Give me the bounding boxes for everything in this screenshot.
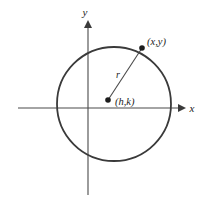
circle-point-label: (x,y) [147,36,166,48]
circle-point-dot [139,45,145,51]
radius-line [108,48,142,100]
center-point-dot [105,97,111,103]
radius-label: r [116,69,120,80]
circle-shape [57,47,171,161]
circle-diagram-canvas: y x r (h,k) (x,y) [0,0,214,207]
x-axis-arrowhead [178,104,186,112]
center-point-label: (h,k) [115,96,135,108]
circle-diagram-figure: y x r (h,k) (x,y) [0,0,214,207]
x-axis-label: x [189,102,195,114]
y-axis-label: y [82,6,88,18]
y-axis-arrowhead [84,20,92,28]
